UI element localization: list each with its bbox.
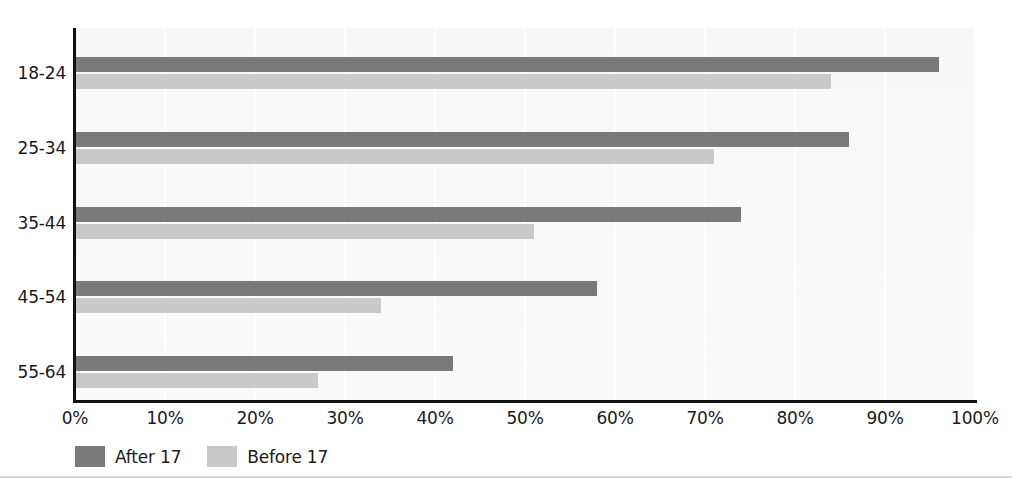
bar-group xyxy=(75,327,975,402)
legend-item[interactable]: After 17 xyxy=(75,446,181,467)
bar-before xyxy=(75,298,381,313)
bar-before xyxy=(75,224,534,239)
x-tick-label: 90% xyxy=(866,408,903,428)
bar-before xyxy=(75,149,714,164)
x-tick-label: 100% xyxy=(951,408,999,428)
y-tick-label: 18-24 xyxy=(0,63,66,83)
legend-label: After 17 xyxy=(115,447,181,467)
bar-before xyxy=(75,74,831,89)
x-tick-label: 10% xyxy=(146,408,183,428)
x-axis-line xyxy=(73,400,977,403)
bar-group xyxy=(75,178,975,253)
chart-legend: After 17Before 17 xyxy=(75,446,328,467)
x-tick-label: 30% xyxy=(326,408,363,428)
y-tick-label: 35-44 xyxy=(0,213,66,233)
x-tick-label: 0% xyxy=(62,408,89,428)
x-tick-label: 50% xyxy=(506,408,543,428)
legend-item[interactable]: Before 17 xyxy=(207,446,328,467)
bar-after xyxy=(75,356,453,371)
x-tick-label: 70% xyxy=(686,408,723,428)
x-tick-label: 20% xyxy=(236,408,273,428)
bar-after xyxy=(75,57,939,72)
bar-after xyxy=(75,132,849,147)
plot-area xyxy=(75,28,975,402)
grouped-bar-chart: 18-2425-3435-4445-5455-64 0%10%20%30%40%… xyxy=(0,0,1012,478)
legend-swatch-icon xyxy=(75,446,105,467)
bar-after xyxy=(75,281,597,296)
y-tick-label: 55-64 xyxy=(0,362,66,382)
legend-swatch-icon xyxy=(207,446,237,467)
y-tick-label: 45-54 xyxy=(0,287,66,307)
x-tick-label: 80% xyxy=(776,408,813,428)
legend-label: Before 17 xyxy=(247,447,328,467)
bar-group xyxy=(75,103,975,178)
chart-title xyxy=(0,0,1012,6)
bar-group xyxy=(75,252,975,327)
y-axis-line xyxy=(73,28,76,402)
bar-before xyxy=(75,373,318,388)
x-tick-label: 60% xyxy=(596,408,633,428)
bar-after xyxy=(75,207,741,222)
y-tick-label: 25-34 xyxy=(0,138,66,158)
x-tick-label: 40% xyxy=(416,408,453,428)
bar-group xyxy=(75,28,975,103)
